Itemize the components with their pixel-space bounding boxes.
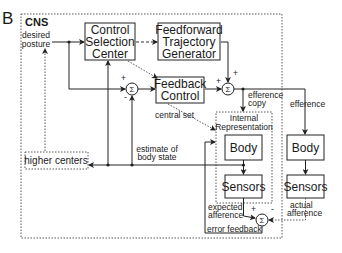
sensors-label: Sensors <box>283 180 327 194</box>
feedback-line2: Control <box>161 89 200 103</box>
internal-sensors-label: Sensors <box>221 180 265 194</box>
efference-copy-label-2: copy <box>248 98 267 108</box>
csc-to-feedback <box>128 61 157 78</box>
expected-afference-label-2: afference <box>208 210 244 220</box>
internal-body-label: Body <box>230 141 257 155</box>
sigma-2: Σ <box>226 85 231 94</box>
sum3-minus: - <box>271 204 274 214</box>
cns-label: CNS <box>25 16 48 28</box>
cns-control-diagram: B CNS desired posture Control Selection … <box>0 0 342 253</box>
control-selection-line3: Center <box>92 47 128 61</box>
internal-representation-line2: Representation <box>215 122 273 132</box>
sum1-plus: + <box>121 73 126 83</box>
sum2-plus-left: + <box>216 76 221 86</box>
estimate-label-2: body state <box>137 152 176 162</box>
sum1-minus: - <box>124 92 127 102</box>
sum2-plus-top: + <box>233 68 238 78</box>
efference-label: efference <box>290 99 326 109</box>
feedforward-line3: Generator <box>162 47 216 61</box>
body-label: Body <box>292 141 319 155</box>
desired-posture-label-2: posture <box>22 39 51 49</box>
higher-centers-label: higher centers <box>24 155 87 166</box>
panel-label: B <box>2 9 13 28</box>
sigma-1: Σ <box>130 85 135 94</box>
sum3-plus: + <box>251 204 256 214</box>
central-set-label: central set <box>155 110 195 120</box>
actual-afference-label-2: afference <box>287 208 323 218</box>
